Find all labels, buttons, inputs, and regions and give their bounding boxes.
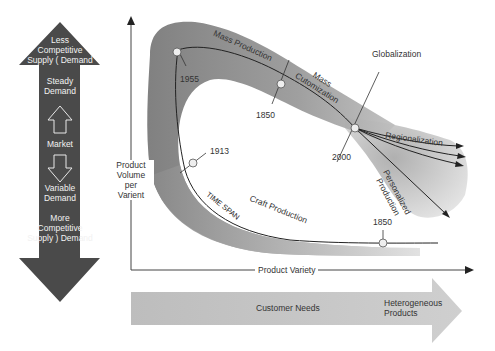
milestone-1913 — [189, 159, 197, 167]
market-label: Market — [20, 139, 100, 149]
steady-demand-label: Steady Demand — [20, 76, 100, 96]
heterogeneous-products-label: Heterogeneous Products — [384, 298, 442, 318]
year-2000-label: 2000 — [332, 152, 351, 162]
y-axis-label: Product Volume per Varient — [108, 160, 154, 200]
milestone-2000 — [351, 124, 359, 132]
year-1850-craft-label: 1850 — [373, 217, 392, 227]
milestone-1955 — [173, 48, 181, 56]
market-top-label: Less Competitive Supply ( Demand — [20, 35, 100, 65]
globalization-label: Globalization — [372, 49, 421, 59]
milestone-1850-craft — [379, 239, 387, 247]
market-bottom-label: More Competitive Supply ) Demand — [20, 213, 100, 243]
x-axis-label: Product Variety — [255, 265, 318, 275]
customer-needs-label: Customer Needs — [256, 303, 320, 313]
x-axis-arrowhead — [465, 266, 474, 274]
year-1955-label: 1955 — [180, 74, 199, 84]
milestone-1850-mass — [277, 80, 285, 88]
year-1850-mass-label: 1850 — [256, 110, 275, 120]
year-1913-label: 1913 — [210, 146, 229, 156]
y-axis-arrowhead — [127, 16, 135, 25]
variable-demand-label: Variable Demand — [20, 183, 100, 203]
